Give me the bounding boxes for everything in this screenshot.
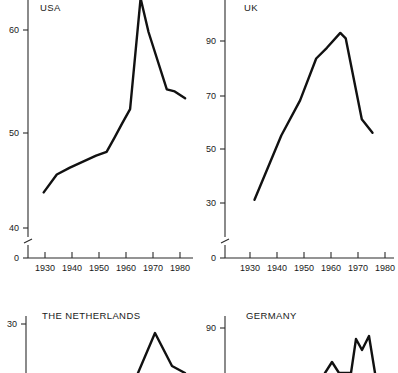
usa-xtick-label-1950: 1950 (89, 263, 109, 273)
usa-ytick-label-50: 50 (9, 128, 19, 138)
germany-plot: GERMANY 90 (199, 305, 398, 373)
uk-ytick-label-90: 90 (206, 36, 216, 46)
uk-data-line (255, 33, 373, 200)
uk-xtick-label-1940: 1940 (267, 263, 287, 273)
netherlands-ytick-label-30: 30 (7, 319, 17, 329)
usa-xtick-label-1980: 1980 (170, 263, 190, 273)
figure-small-multiples: USA 60 50 40 0 1930 1940 (0, 0, 398, 373)
usa-title: USA (40, 2, 61, 13)
usa-xtick-label-1960: 1960 (116, 263, 136, 273)
usa-xtick-label-1970: 1970 (143, 263, 163, 273)
uk-xtick-label-1950: 1950 (294, 263, 314, 273)
germany-data-line (325, 336, 375, 373)
usa-axis-break-icon (24, 239, 32, 243)
usa-ytick-label-40: 40 (9, 223, 19, 233)
germany-title: GERMANY (246, 310, 297, 321)
uk-xtick-label-1970: 1970 (348, 263, 368, 273)
uk-ytick-label-0: 0 (211, 253, 216, 263)
netherlands-data-line (138, 333, 185, 373)
germany-ytick-label-90: 90 (206, 323, 216, 333)
uk-xtick-label-1930: 1930 (240, 263, 260, 273)
chart-panel-netherlands: THE NETHERLANDS 30 (0, 305, 199, 373)
uk-ytick-label-70: 70 (206, 91, 216, 101)
uk-axis-break-icon (221, 239, 229, 243)
uk-ytick-label-50: 50 (206, 144, 216, 154)
usa-plot: USA 60 50 40 0 1930 1940 (0, 0, 199, 290)
usa-xtick-label-1940: 1940 (62, 263, 82, 273)
uk-xtick-label-1980: 1980 (375, 263, 395, 273)
chart-panel-usa: USA 60 50 40 0 1930 1940 (0, 0, 199, 290)
uk-ytick-label-30: 30 (206, 198, 216, 208)
chart-panel-germany: GERMANY 90 (199, 305, 398, 373)
uk-xtick-label-1960: 1960 (321, 263, 341, 273)
chart-panel-uk: UK 90 70 50 30 0 1930 1940 1950 196 (199, 0, 398, 290)
uk-title: UK (244, 2, 258, 13)
usa-xtick-label-1930: 1930 (35, 263, 55, 273)
usa-ytick-label-60: 60 (9, 25, 19, 35)
netherlands-title: THE NETHERLANDS (42, 310, 140, 321)
uk-plot: UK 90 70 50 30 0 1930 1940 1950 196 (199, 0, 398, 290)
netherlands-plot: THE NETHERLANDS 30 (0, 305, 199, 373)
usa-ytick-label-0: 0 (14, 253, 19, 263)
usa-data-line (44, 0, 185, 192)
